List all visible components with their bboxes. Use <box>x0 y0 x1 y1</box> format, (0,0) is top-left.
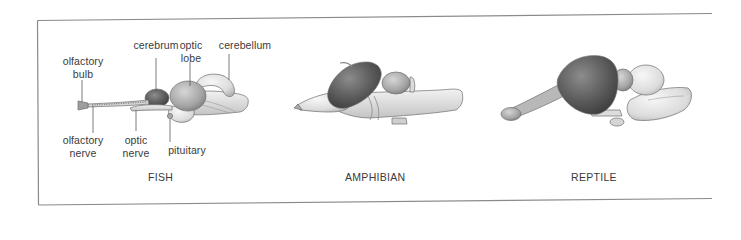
label-olfactory-bulb: olfactory bulb <box>58 55 108 80</box>
label-cerebellum: cerebellum <box>215 39 275 52</box>
label-line: lobe <box>175 52 207 65</box>
label-olfactory-nerve: olfactory nerve <box>58 134 108 159</box>
label-line: olfactory <box>58 134 108 147</box>
label-line: optic <box>120 134 152 147</box>
label-line: olfactory <box>58 55 108 68</box>
label-line: bulb <box>58 68 108 81</box>
label-optic-nerve: optic nerve <box>120 134 152 159</box>
fish-brain-illustration <box>78 74 248 122</box>
label-line: nerve <box>120 147 152 160</box>
label-pituitary: pituitary <box>164 144 210 157</box>
reptile-brain-illustration <box>501 56 691 126</box>
caption-fish: FISH <box>148 171 173 183</box>
label-optic-lobe: optic lobe <box>175 39 207 64</box>
amphibian-brain-illustration <box>294 62 463 124</box>
caption-reptile: REPTILE <box>571 171 617 183</box>
label-line: optic <box>175 39 207 52</box>
caption-amphibian: AMPHIBIAN <box>345 171 405 183</box>
label-line: nerve <box>58 147 108 160</box>
